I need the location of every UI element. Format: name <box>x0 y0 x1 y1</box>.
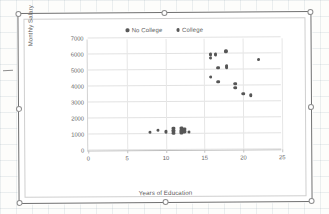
y-axis-title: Monthly Salary <box>27 0 33 64</box>
y-gridline <box>88 52 281 54</box>
x-axis-tick-label: 25 <box>279 154 285 160</box>
x-gridline <box>282 38 284 149</box>
x-axis-title: Years of Education <box>20 188 312 197</box>
x-axis-tick-mark <box>282 149 283 152</box>
y-axis-tick-label: 5000 <box>71 67 84 73</box>
y-axis-tick-label: 6000 <box>71 51 84 57</box>
y-axis-tick-label: 2000 <box>71 115 84 121</box>
data-point[interactable] <box>234 86 237 89</box>
y-gridline <box>88 84 281 86</box>
x-axis-tick-label: 15 <box>201 155 207 161</box>
y-gridline <box>88 100 281 102</box>
x-axis-tick-mark <box>205 150 206 153</box>
x-axis-tick-mark <box>243 150 244 153</box>
data-point[interactable] <box>209 56 212 59</box>
x-axis-tick-label: 20 <box>240 155 246 161</box>
x-gridline <box>204 39 206 150</box>
data-point[interactable] <box>249 93 252 96</box>
y-axis-tick-label: 4000 <box>71 83 84 89</box>
data-point[interactable] <box>216 80 219 83</box>
data-point[interactable] <box>209 75 212 78</box>
y-axis-tick-label: 7000 <box>71 35 84 41</box>
chart-object[interactable]: No College College Monthly Salary 010002… <box>17 11 312 204</box>
x-axis-tick-mark <box>88 150 89 153</box>
y-axis-tick-label: 0 <box>81 147 84 153</box>
x-axis-tick-mark <box>127 150 128 153</box>
x-gridline <box>165 39 167 150</box>
data-point[interactable] <box>257 58 260 61</box>
x-axis-tick-label: 5 <box>125 155 128 161</box>
y-axis-tick-label: 1000 <box>71 131 84 137</box>
x-gridline <box>126 39 128 150</box>
data-point[interactable] <box>241 92 244 95</box>
x-axis-tick-label: 0 <box>87 155 90 161</box>
plot-wrapper: Monthly Salary 0100020003000400050006000… <box>18 12 311 203</box>
data-point[interactable] <box>156 128 159 131</box>
y-gridline <box>88 116 281 118</box>
x-axis-tick-label: 10 <box>163 155 169 161</box>
y-gridline <box>88 36 281 38</box>
plot-area[interactable]: 010002000300040005000600070000510152025 <box>87 38 282 151</box>
y-axis-tick-label: 3000 <box>71 99 84 105</box>
x-axis-tick-mark <box>166 150 167 153</box>
y-gridline <box>88 68 281 70</box>
data-point[interactable] <box>172 131 175 134</box>
y-gridline <box>88 148 281 150</box>
data-point[interactable] <box>214 53 217 56</box>
